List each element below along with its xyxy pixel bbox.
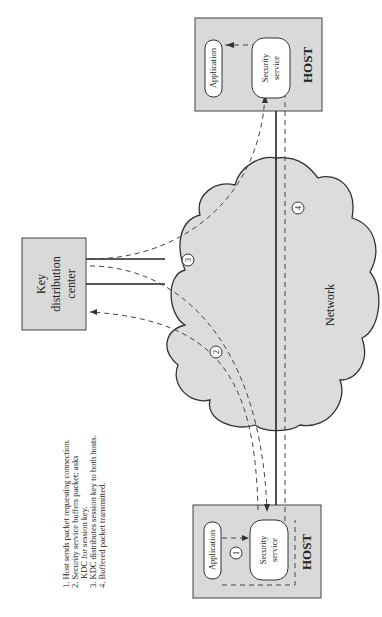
step-4-label: 4 bbox=[294, 206, 303, 210]
kdc-label-line2: distribution bbox=[49, 256, 63, 311]
step-1-label: 1 bbox=[232, 551, 241, 555]
security-top-line1: Security bbox=[260, 53, 270, 82]
kdc-label-line3: center bbox=[64, 269, 78, 298]
arrow-icon bbox=[90, 309, 97, 315]
application-top-label: Application bbox=[208, 47, 218, 88]
kdc-label-line1: Key bbox=[34, 274, 48, 294]
legend-item-4: 4. Buffered packet transmitted. bbox=[97, 483, 107, 588]
step-3-label: 3 bbox=[184, 258, 193, 262]
legend: 1. Host sends packet requesting connecti… bbox=[61, 435, 107, 588]
network-label: Network bbox=[323, 284, 337, 326]
application-bottom-label: Application bbox=[207, 529, 217, 570]
step-2-label: 2 bbox=[212, 350, 221, 354]
network-cloud bbox=[167, 157, 379, 430]
security-top-line2: service bbox=[271, 56, 281, 80]
host-bottom-label: HOST bbox=[299, 534, 314, 570]
host-top-label: HOST bbox=[300, 47, 315, 83]
kdc-diagram: 1 2 3 4 Application Application Security… bbox=[0, 0, 382, 617]
security-bottom-line2: service bbox=[269, 538, 279, 562]
security-bottom-line1: Security bbox=[258, 535, 268, 564]
